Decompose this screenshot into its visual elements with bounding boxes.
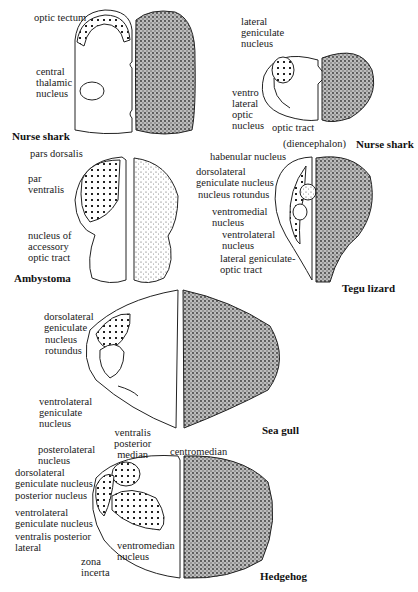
label-ventrolateral-nucleus: ventrolateral nucleus — [222, 229, 275, 251]
label-nucleus-accessory-optic-tract: nucleus of accessory optic tract — [28, 230, 71, 263]
label-nucleus-rotundus: nucleus rotundus — [198, 189, 269, 200]
label-dorsolateral-geniculate-nucleus: dorsolateral geniculate nucleus — [196, 166, 274, 188]
species-label-ambystoma: Ambystoma — [14, 272, 71, 284]
species-label-nurse-shark: Nurse shark — [12, 130, 70, 142]
label-optic-tract: optic tract — [272, 122, 314, 133]
label-ventralis-posterior-lateral: ventralis posterior lateral — [15, 531, 91, 553]
label-dorsolateral-geniculate-nucleus-hedgehog: dorsolateral geniculate nucleus — [15, 467, 93, 489]
label-posterior-nucleus: posterior nucleus — [15, 490, 87, 501]
panel-ambystoma — [75, 157, 178, 283]
species-label-sea-gull: Sea gull — [262, 424, 299, 436]
label-ventralis-posterior-median: ventralis posterior median — [114, 427, 151, 460]
label-pars-dorsalis: pars dorsalis — [30, 148, 83, 159]
label-central-thalamic-nucleus: central thalamic nucleus — [36, 66, 72, 99]
panel-sea-gull — [86, 290, 279, 428]
label-ventrolateral-optic-nucleus: ventro lateral optic nucleus — [232, 87, 264, 131]
label-nucleus-rotundus-gull: nucleus rotundus — [45, 334, 82, 356]
label-habenular-nucleus: habenular nucleus — [210, 151, 286, 162]
label-ventromedian-nucleus: ventromedian nucleus — [117, 540, 175, 562]
panel-nurse-shark-2 — [262, 53, 373, 122]
label-dorsolateral-geniculate: dorsolateral geniculate — [44, 311, 94, 333]
label-posterolateral-nucleus: posterolateral nucleus — [38, 444, 95, 466]
species-label-hedgehog: Hedgehog — [260, 570, 307, 582]
species-label-nurse-shark-diencephalon: Nurse shark — [356, 138, 414, 150]
label-par-ventralis: par ventralis — [28, 173, 64, 195]
species-label-tegu-lizard: Tegu lizard — [342, 282, 395, 294]
label-ventrolateral-geniculate-nucleus-hedgehog: ventrolateral geniculate nucleus — [15, 507, 93, 529]
label-lateral-geniculate-optic-tract: lateral geniculate- optic tract — [220, 253, 296, 275]
label-zona-incerta: zona incerta — [81, 556, 110, 578]
label-ventrolateral-geniculate-nucleus-gull: ventrolateral geniculate nucleus — [39, 396, 92, 429]
label-diencephalon: (diencephalon) — [283, 138, 346, 149]
label-centromedian: centromedian — [170, 446, 227, 457]
label-optic-tectum: optic tectum — [34, 12, 86, 23]
label-lateral-geniculate-nucleus: lateral geniculate nucleus — [241, 16, 284, 49]
label-ventromedial-nucleus: ventromedial nucleus — [212, 206, 267, 228]
panel-nurse-shark-1 — [75, 10, 195, 134]
